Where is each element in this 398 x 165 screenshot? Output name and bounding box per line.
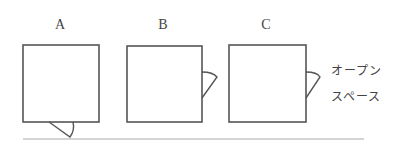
annotation-line2: スペース (331, 87, 381, 104)
box-c (229, 45, 306, 122)
door-b-icon (202, 72, 217, 98)
label-b: B (158, 17, 167, 33)
annotation-line1: オープン (331, 61, 382, 78)
box-a (23, 45, 99, 122)
door-a-icon (49, 122, 74, 137)
label-c: C (261, 17, 270, 33)
door-c-icon (306, 72, 320, 98)
box-b (127, 46, 202, 122)
label-a: A (55, 17, 65, 33)
